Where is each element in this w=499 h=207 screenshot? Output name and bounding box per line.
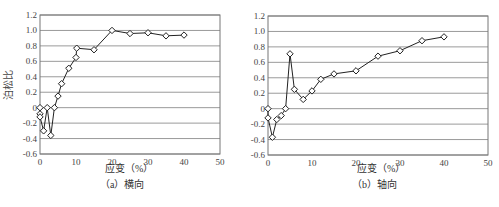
y-tick-label: -0.4 [23, 134, 38, 144]
diamond-marker [51, 104, 57, 110]
y-tick-label: 1.0 [26, 25, 38, 35]
y-tick-label: 0.6 [26, 56, 38, 66]
diamond-marker [58, 81, 64, 87]
y-tick-label: 1.2 [254, 11, 265, 21]
y-tick-label: 0.2 [26, 87, 37, 97]
chart-a-xlabel: 应变（%） [105, 160, 153, 175]
y-tick-label: -0.2 [251, 119, 265, 129]
y-tick-label: 0.6 [254, 57, 266, 67]
y-axis-label: 泊松比 [2, 70, 14, 100]
diamond-marker [73, 54, 79, 60]
x-tick-label: 10 [72, 157, 82, 167]
diamond-marker [181, 32, 187, 38]
diamond-marker [282, 105, 288, 111]
diamond-marker [37, 104, 43, 110]
diamond-marker [48, 132, 54, 138]
chart-a-transverse: -0.6-0.4-0.200.20.40.60.81.01.2010203040… [0, 0, 250, 207]
y-tick-label: -0.4 [251, 135, 266, 145]
diamond-marker [163, 33, 169, 39]
y-tick-label: 0.2 [254, 88, 265, 98]
diamond-marker [331, 71, 337, 77]
y-tick-label: 1.0 [254, 26, 266, 36]
chart-b-xlabel: 应变（%） [357, 160, 405, 175]
diamond-marker [353, 68, 359, 74]
x-tick-label: 50 [484, 158, 494, 168]
diamond-marker [397, 48, 403, 54]
y-tick-label: -0.2 [23, 118, 37, 128]
chart-b-axial: -0.6-0.4-0.200.20.40.60.81.01.2010203040… [249, 0, 499, 207]
diamond-marker [44, 104, 50, 110]
x-tick-label: 10 [308, 158, 318, 168]
y-tick-label: 0.4 [254, 73, 266, 83]
y-tick-label: 0.4 [26, 72, 38, 82]
plot-frame [268, 16, 488, 155]
diamond-marker [265, 115, 271, 121]
y-tick-label: -0.6 [23, 149, 38, 159]
diamond-marker [419, 38, 425, 44]
diamond-marker [375, 53, 381, 59]
y-tick-label: -0.6 [251, 150, 266, 160]
x-tick-label: 0 [266, 158, 271, 168]
diamond-marker [441, 34, 447, 40]
diamond-marker [127, 30, 133, 36]
y-tick-label: 1.2 [26, 10, 37, 20]
diamond-marker [287, 51, 293, 57]
x-tick-label: 50 [216, 157, 226, 167]
x-tick-label: 40 [180, 157, 190, 167]
x-tick-label: 0 [38, 157, 43, 167]
chart-b-caption: （b）轴向 [352, 176, 397, 191]
diamond-marker [55, 93, 61, 99]
diamond-marker [265, 105, 271, 111]
y-tick-label: 0.8 [254, 42, 266, 52]
y-tick-label: 0.8 [26, 41, 38, 51]
chart-a-caption: （a）横向 [100, 176, 144, 191]
x-tick-label: 40 [440, 158, 450, 168]
diamond-marker [40, 128, 46, 134]
diamond-marker [66, 65, 72, 71]
